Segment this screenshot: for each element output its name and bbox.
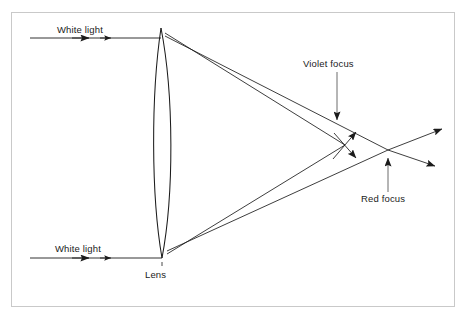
- label-white-light-bottom: White light: [55, 243, 101, 254]
- label-white-light-top: White light: [57, 24, 103, 35]
- violet-ray-from-bottom: [167, 145, 345, 254]
- red-out-lower: [388, 150, 435, 166]
- refracted-rays-top: [165, 33, 388, 150]
- lens-shape: [154, 28, 171, 258]
- diverging-rays-violet: [333, 132, 356, 159]
- label-violet-focus: Violet focus: [303, 58, 354, 69]
- label-lens: Lens: [145, 269, 166, 280]
- ray-diagram-svg: [0, 0, 464, 314]
- red-ray-from-top: [165, 36, 388, 150]
- red-ray-from-bottom: [167, 150, 388, 251]
- label-red-focus: Red focus: [361, 193, 405, 204]
- diverging-rays-red: [388, 129, 442, 166]
- red-out-upper: [388, 129, 442, 150]
- chromatic-aberration-figure: White light White light Lens Violet focu…: [0, 0, 464, 314]
- refracted-rays-bottom: [167, 145, 388, 254]
